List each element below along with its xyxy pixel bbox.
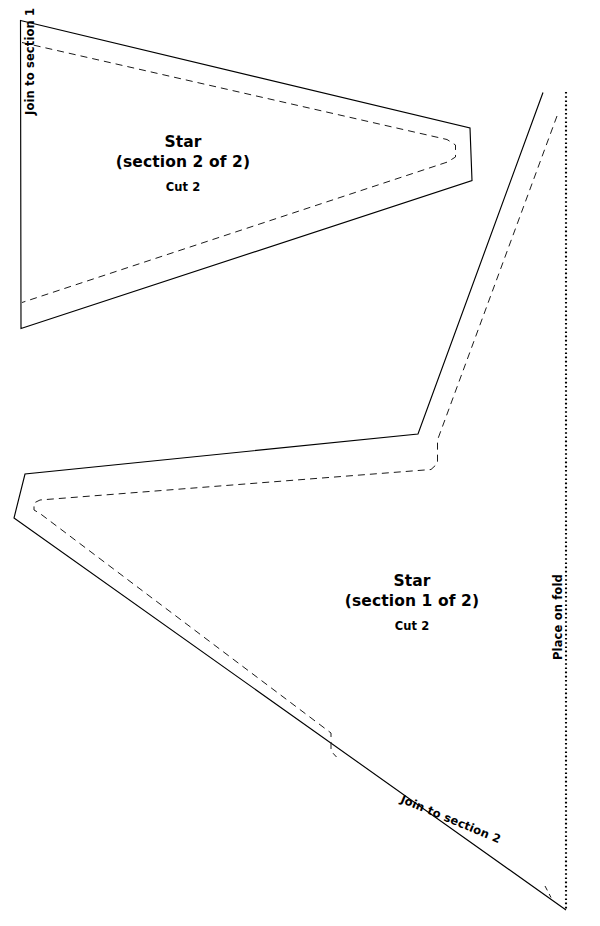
section-1-label-block: Star (section 1 of 2) Cut 2 xyxy=(317,572,507,633)
section-1-title: Star xyxy=(317,572,507,592)
section-2-label-block: Star (section 2 of 2) Cut 2 xyxy=(93,133,273,194)
section-1-subtitle: (section 1 of 2) xyxy=(317,592,507,612)
section-2-title: Star xyxy=(93,133,273,153)
section-2-join-edge-label: Join to section 1 xyxy=(23,5,37,115)
section-2-cut-count: Cut 2 xyxy=(93,180,273,195)
pattern-drawing xyxy=(0,0,600,926)
pattern-sheet: Star (section 2 of 2) Cut 2 Join to sect… xyxy=(0,0,600,926)
section-1-cut-line xyxy=(14,93,566,911)
section-2-subtitle: (section 2 of 2) xyxy=(93,153,273,173)
section-1-cut-count: Cut 2 xyxy=(317,619,507,634)
place-on-fold-label: Place on fold xyxy=(551,550,565,660)
